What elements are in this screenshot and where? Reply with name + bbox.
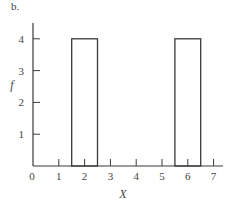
histogram-bar <box>72 39 98 166</box>
x-tick-label: 1 <box>56 170 62 182</box>
histogram-chart: 012345671234Xf <box>0 0 229 206</box>
x-tick-label: 2 <box>82 170 88 182</box>
y-tick-label: 2 <box>19 96 25 108</box>
x-tick-label: 7 <box>211 170 217 182</box>
x-tick-label: 4 <box>133 170 139 182</box>
x-axis-label: X <box>118 187 127 201</box>
x-tick-label: 5 <box>159 170 165 182</box>
y-axis-label: f <box>10 78 15 92</box>
y-tick-label: 3 <box>19 65 25 77</box>
x-tick-label: 0 <box>29 170 35 182</box>
histogram-bar <box>175 39 201 166</box>
y-tick-label: 4 <box>19 33 25 45</box>
x-tick-label: 6 <box>185 170 191 182</box>
y-tick-label: 1 <box>19 128 25 140</box>
x-tick-label: 3 <box>108 170 114 182</box>
